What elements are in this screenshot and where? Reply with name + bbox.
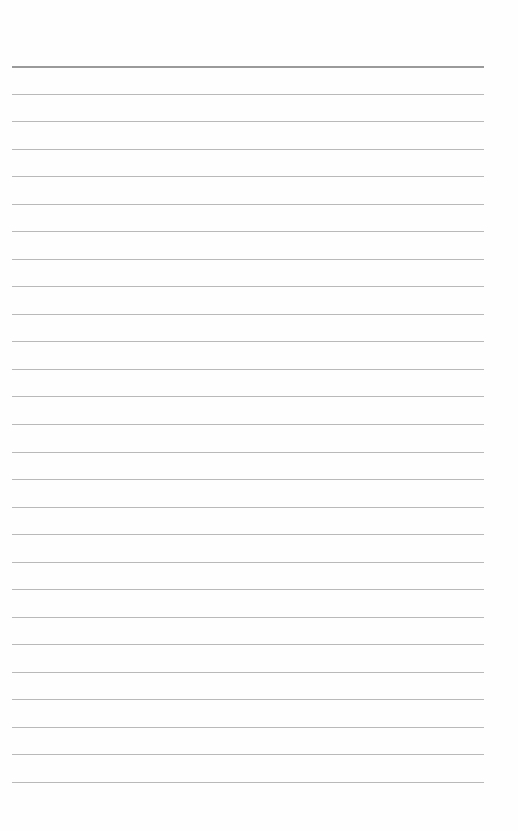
rule-line	[12, 259, 484, 260]
rule-line	[12, 479, 484, 480]
rule-line	[12, 617, 484, 618]
rule-line	[12, 727, 484, 728]
rule-line	[12, 396, 484, 397]
header-rule-line	[12, 66, 484, 68]
rule-line	[12, 231, 484, 232]
rule-line	[12, 424, 484, 425]
rule-line	[12, 176, 484, 177]
rule-line	[12, 562, 484, 563]
rule-line	[12, 286, 484, 287]
rule-line	[12, 507, 484, 508]
rule-line	[12, 534, 484, 535]
rule-line	[12, 314, 484, 315]
lined-paper-page	[0, 0, 518, 831]
rule-line	[12, 149, 484, 150]
rule-line	[12, 672, 484, 673]
rule-line	[12, 754, 484, 755]
rule-line	[12, 699, 484, 700]
rule-line	[12, 369, 484, 370]
rule-line	[12, 204, 484, 205]
rule-line	[12, 341, 484, 342]
rule-line	[12, 121, 484, 122]
rule-line	[12, 644, 484, 645]
rule-line	[12, 94, 484, 95]
rule-line	[12, 589, 484, 590]
rule-line	[12, 452, 484, 453]
rule-line	[12, 782, 484, 783]
